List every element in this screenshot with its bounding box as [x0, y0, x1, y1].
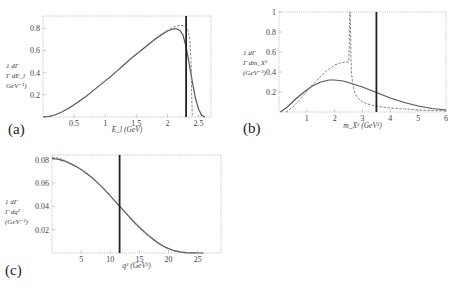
- y-tick-label: 0.6: [30, 46, 40, 55]
- series-solid-line: [280, 80, 446, 112]
- y-tick-label: 0.8: [266, 28, 276, 37]
- x-tick-label: 0.5: [69, 119, 79, 128]
- x-tick-label: 5: [416, 114, 420, 123]
- y-axis-label-line: 1 dΓ: [6, 62, 20, 70]
- panel-label: (c): [5, 262, 22, 279]
- x-tick-label: 6: [444, 114, 448, 123]
- y-tick-label: 0.6: [266, 48, 276, 57]
- y-tick-label: 0.8: [30, 24, 40, 33]
- y-tick-label: 0.04: [35, 202, 49, 211]
- y-axis-label-line: Γ dE_l: [5, 72, 25, 80]
- panel-label: (b): [243, 120, 261, 137]
- x-tick-label: 25: [194, 255, 202, 264]
- y-axis-label-line: (GeV⁻²): [243, 69, 267, 77]
- x-axis-label: E_l (GeV): [111, 125, 143, 134]
- x-axis-label: m_X² (GeV²): [343, 121, 382, 130]
- x-tick-label: 20: [165, 255, 173, 264]
- y-tick-label: 0.08: [35, 156, 49, 165]
- plot-frame: [279, 12, 446, 112]
- x-tick-label: 1: [103, 119, 107, 128]
- x-tick-label: 2.5: [194, 119, 204, 128]
- panel-label: (a): [8, 121, 25, 138]
- y-axis-label-line: (GeV⁻²): [5, 218, 29, 226]
- x-tick-label: 2: [165, 119, 169, 128]
- x-tick-label: 4: [388, 114, 392, 123]
- series-dashed-line: [52, 157, 198, 253]
- x-tick-label: 5: [79, 255, 83, 264]
- y-axis-label-line: 1 dΓ: [5, 198, 19, 206]
- y-tick-label: 0.2: [30, 91, 40, 100]
- y-tick-label: 1: [272, 8, 276, 17]
- series-solid-line: [43, 29, 205, 117]
- x-tick-label: 1: [305, 114, 309, 123]
- x-tick-label: 2: [333, 114, 337, 123]
- panel-b: 1234560.20.40.60.81m_X² (GeV²)1 dΓΓ dm_X…: [242, 8, 448, 137]
- y-axis-label-line: GeV⁻¹): [6, 82, 27, 90]
- panel-a: 0.511.522.50.20.40.60.8E_l (GeV)1 dΓΓ dE…: [5, 16, 211, 138]
- y-tick-label: 0.4: [266, 68, 276, 77]
- panel-c: 5101520250.020.040.060.08q² (GeV²)1 dΓΓ …: [4, 155, 221, 279]
- x-axis-label: q² (GeV²): [122, 261, 151, 270]
- y-axis-label-line: 1 dΓ: [243, 49, 257, 57]
- y-axis-label-line: Γ dm_X²: [242, 59, 268, 67]
- y-tick-label: 0.02: [35, 226, 49, 235]
- plot-frame: [52, 155, 221, 253]
- y-tick-label: 0.06: [35, 179, 49, 188]
- series-solid-line: [52, 159, 204, 254]
- series-dashed-line: [286, 12, 446, 112]
- figure: 0.511.522.50.20.40.60.8E_l (GeV)1 dΓΓ dE…: [0, 0, 460, 290]
- y-tick-label: 0.4: [30, 69, 40, 78]
- y-axis-label-line: Γ dq²: [4, 208, 21, 216]
- y-tick-label: 0.2: [266, 88, 276, 97]
- x-tick-label: 10: [106, 255, 114, 264]
